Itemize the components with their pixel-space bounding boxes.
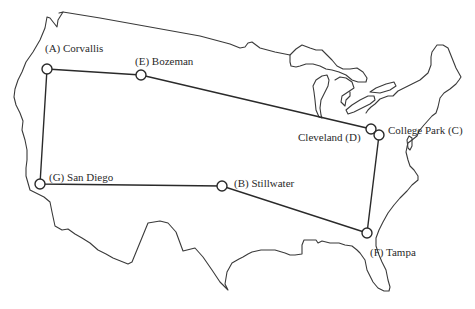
- node-c-college-park[interactable]: College Park (C): [374, 124, 463, 140]
- node-label: (E) Bozeman: [135, 55, 194, 68]
- us-route-map: (A) Corvallis (E) Bozeman Cleveland (D) …: [0, 0, 475, 309]
- lake-erie: [346, 96, 375, 114]
- chesapeake-bay: [407, 136, 412, 150]
- node-marker[interactable]: [374, 130, 384, 140]
- route-path: [40, 69, 379, 233]
- lake-ontario: [370, 82, 396, 93]
- node-e-bozeman[interactable]: (E) Bozeman: [135, 55, 194, 80]
- node-label: Cleveland (D): [298, 131, 361, 144]
- node-label: College Park (C): [388, 124, 463, 137]
- node-marker[interactable]: [35, 179, 45, 189]
- lake-huron: [335, 77, 354, 106]
- node-label: (G) San Diego: [49, 171, 114, 184]
- lake-superior: [290, 45, 367, 82]
- node-marker[interactable]: [42, 64, 52, 74]
- node-f-tampa[interactable]: (F) Tampa: [362, 228, 416, 259]
- node-marker[interactable]: [217, 181, 227, 191]
- lake-michigan: [313, 75, 329, 118]
- node-g-san-diego[interactable]: (G) San Diego: [35, 171, 114, 189]
- node-a-corvallis[interactable]: (A) Corvallis: [42, 42, 103, 74]
- node-label: (F) Tampa: [370, 246, 416, 259]
- node-marker[interactable]: [136, 70, 146, 80]
- node-label: (A) Corvallis: [45, 42, 103, 55]
- node-label: (B) Stillwater: [234, 177, 295, 190]
- node-b-stillwater[interactable]: (B) Stillwater: [217, 177, 295, 191]
- node-marker[interactable]: [362, 228, 372, 238]
